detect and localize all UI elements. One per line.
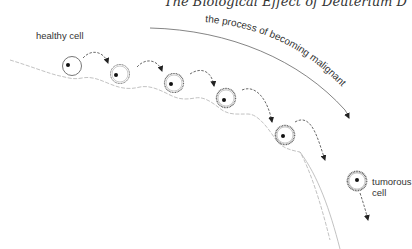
- cell-stage-4: [217, 89, 236, 108]
- arrow-5-6: [295, 120, 325, 160]
- cell-membrane-icon: [165, 74, 184, 93]
- cell-nucleus-icon: [114, 73, 118, 77]
- cell-nucleus-icon: [355, 178, 359, 182]
- cell-nucleus-icon: [169, 82, 173, 86]
- cell-nucleus-icon: [281, 134, 285, 138]
- cell-membrane-icon: [276, 126, 295, 145]
- arrow-2-3: [137, 61, 162, 71]
- cell-stage-1: [63, 57, 82, 76]
- cell-stage-2: [111, 65, 130, 84]
- cell-nucleus-icon: [222, 98, 226, 102]
- process-arc-arrow: the process of becoming malignant: [150, 13, 349, 118]
- cell-membrane-icon: [63, 57, 82, 76]
- cell-membrane-icon: [217, 89, 236, 108]
- arrow-6-out: [360, 193, 368, 220]
- cell-stage-5: [276, 126, 295, 145]
- cell-membrane-icon: [111, 65, 130, 84]
- arrow-3-4: [190, 70, 214, 86]
- cell-stage-3: [165, 74, 184, 93]
- cell-stage-6-tumorous: [348, 172, 367, 191]
- process-label: the process of becoming malignant: [205, 13, 349, 88]
- arrow-1-2: [83, 52, 108, 63]
- cell-nucleus-icon: [66, 63, 70, 67]
